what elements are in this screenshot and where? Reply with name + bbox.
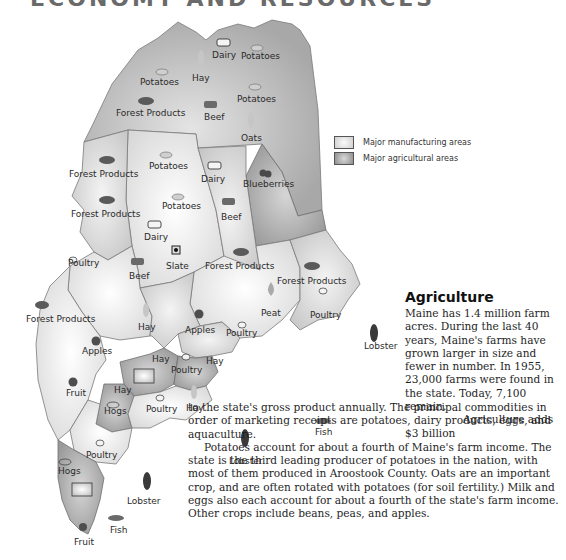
map-label: Apples <box>82 346 113 356</box>
map-label: Hogs <box>58 466 81 476</box>
legend-swatch-manufacturing <box>334 136 354 149</box>
map-label: Hay <box>152 354 170 364</box>
article-title: Agriculture <box>405 289 494 305</box>
legend-item-agricultural: Major agricultural areas <box>334 150 471 166</box>
map-label: Oats <box>241 133 262 143</box>
map-label: Hay <box>206 356 224 366</box>
map-label: Poultry <box>68 258 100 268</box>
manufacturing-area-lewiston <box>134 369 154 383</box>
map-label: Poultry <box>146 404 178 414</box>
map-label: Dairy <box>201 174 226 184</box>
legend-label: Major agricultural areas <box>363 154 458 163</box>
map-label: Poultry <box>310 310 342 320</box>
map-label: Potatoes <box>241 51 280 61</box>
map-label: Forest Products <box>69 169 139 179</box>
article-paragraph: Potatoes account for about a fourth of M… <box>188 441 560 521</box>
legend-swatch-agricultural <box>334 152 354 165</box>
map-label: Hay <box>192 73 210 83</box>
article-paragraph: to the state's gross product annually. T… <box>188 401 560 441</box>
article-column-wide: to the state's gross product annually. T… <box>188 401 560 521</box>
map-label: Lobster <box>127 496 161 506</box>
map-label: Fish <box>110 525 127 535</box>
map-label: Hay <box>114 385 132 395</box>
map-label: Forest Products <box>277 276 347 286</box>
map-label: Slate <box>166 261 189 271</box>
legend-item-manufacturing: Major manufacturing areas <box>334 134 471 150</box>
map-label: Potatoes <box>149 161 188 171</box>
map-label: Fruit <box>74 537 94 547</box>
map-label: Beef <box>221 212 242 222</box>
map-label: Potatoes <box>162 201 201 211</box>
map-label: Forest Products <box>26 314 96 324</box>
manufacturing-area-portland <box>72 483 92 496</box>
map-label: Forest Products <box>205 261 275 271</box>
map-label: Forest Products <box>71 209 141 219</box>
map-label: Beef <box>204 112 225 122</box>
map-label: Potatoes <box>237 94 276 104</box>
map-label: Dairy <box>212 50 237 60</box>
map-legend: Major manufacturing areas Major agricult… <box>334 134 471 166</box>
article-paragraph: Maine has 1.4 million farm acres. During… <box>405 307 565 413</box>
region-somerset-west <box>72 130 132 260</box>
map-label: Hogs <box>104 406 127 416</box>
map-label: Beef <box>129 271 150 281</box>
map-label: Forest Products <box>116 108 186 118</box>
map-label: Apples <box>185 325 216 335</box>
legend-label: Major manufacturing areas <box>363 138 471 147</box>
map-label: Poultry <box>171 365 203 375</box>
map-label: Potatoes <box>140 77 179 87</box>
map-label: Lobster <box>364 341 398 351</box>
map-label: Peat <box>261 308 281 318</box>
map-label: Hay <box>138 322 156 332</box>
map-label: Poultry <box>86 450 118 460</box>
map-label: Fruit <box>66 388 86 398</box>
map-label: Blueberries <box>243 179 294 189</box>
map-label: Dairy <box>144 232 169 242</box>
map-label: Poultry <box>226 328 258 338</box>
